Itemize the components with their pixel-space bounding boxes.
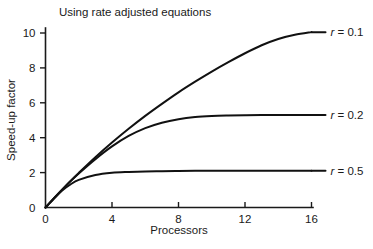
y-tick-label: 2 bbox=[29, 167, 35, 179]
x-tick-label: 4 bbox=[109, 213, 116, 225]
x-axis-title: Processors bbox=[150, 224, 208, 236]
y-tick-label: 10 bbox=[23, 27, 36, 39]
y-tick-label: 0 bbox=[29, 202, 35, 214]
series-value-0: = 0.1 bbox=[334, 26, 363, 38]
y-tick-label: 4 bbox=[29, 132, 36, 144]
series-label-2: r = 0.5 bbox=[331, 165, 364, 177]
x-tick-label: 12 bbox=[239, 213, 252, 225]
y-tick-label: 8 bbox=[29, 62, 35, 74]
series-value-2: = 0.5 bbox=[334, 165, 363, 177]
chart-title: Using rate adjusted equations bbox=[59, 6, 211, 18]
x-tick-label: 0 bbox=[42, 213, 48, 225]
chart-canvas: Using rate adjusted equations 0246810 04… bbox=[0, 0, 373, 249]
x-tick-label: 8 bbox=[175, 213, 181, 225]
y-axis-title: Speed-up factor bbox=[5, 79, 17, 161]
x-tick-label: 16 bbox=[305, 213, 318, 225]
series-label-0: r = 0.1 bbox=[331, 26, 364, 38]
speedup-chart-figure: Using rate adjusted equations 0246810 04… bbox=[0, 0, 373, 249]
series-value-1: = 0.2 bbox=[334, 109, 363, 121]
series-label-1: r = 0.2 bbox=[331, 109, 364, 121]
y-tick-label: 6 bbox=[29, 97, 35, 109]
